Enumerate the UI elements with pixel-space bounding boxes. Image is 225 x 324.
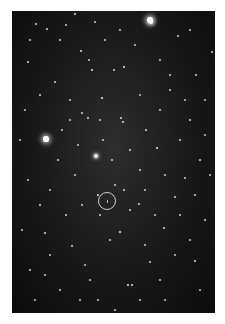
star bbox=[109, 239, 111, 241]
star bbox=[163, 227, 165, 229]
star bbox=[114, 184, 115, 185]
star bbox=[94, 154, 98, 158]
star-field-image bbox=[12, 11, 215, 313]
star bbox=[77, 144, 78, 145]
star bbox=[80, 50, 83, 53]
star bbox=[144, 189, 145, 190]
star bbox=[119, 231, 122, 234]
star bbox=[194, 260, 197, 263]
star bbox=[174, 254, 175, 255]
star bbox=[164, 299, 166, 301]
star bbox=[84, 264, 86, 266]
star bbox=[101, 97, 104, 100]
star bbox=[138, 203, 140, 205]
star bbox=[94, 21, 95, 22]
star bbox=[65, 24, 66, 25]
star bbox=[159, 279, 160, 280]
star bbox=[139, 299, 140, 300]
star bbox=[87, 117, 89, 119]
star bbox=[99, 214, 101, 216]
star bbox=[204, 134, 205, 135]
star bbox=[97, 299, 99, 301]
star bbox=[194, 194, 195, 195]
star bbox=[113, 69, 115, 71]
star bbox=[169, 74, 170, 75]
star bbox=[184, 177, 186, 179]
star bbox=[79, 299, 80, 300]
star bbox=[34, 299, 35, 300]
star bbox=[49, 189, 50, 190]
star bbox=[99, 119, 100, 120]
star bbox=[29, 39, 30, 40]
star bbox=[145, 129, 147, 131]
star bbox=[81, 204, 82, 205]
star bbox=[184, 99, 185, 100]
star bbox=[189, 239, 190, 240]
star bbox=[81, 112, 83, 114]
star bbox=[169, 89, 171, 91]
star bbox=[139, 94, 140, 95]
star bbox=[134, 44, 135, 45]
star bbox=[54, 81, 56, 83]
star bbox=[189, 119, 191, 121]
target-object bbox=[107, 200, 109, 203]
star bbox=[177, 35, 179, 37]
star bbox=[189, 29, 190, 30]
star bbox=[69, 99, 71, 101]
star bbox=[24, 109, 25, 110]
star bbox=[159, 109, 161, 111]
star bbox=[59, 39, 61, 41]
star bbox=[59, 289, 61, 291]
star bbox=[209, 174, 210, 175]
star bbox=[120, 117, 122, 119]
star bbox=[179, 214, 180, 215]
star bbox=[69, 119, 70, 120]
star bbox=[29, 269, 31, 271]
star bbox=[44, 274, 45, 275]
star bbox=[44, 232, 46, 234]
star bbox=[149, 261, 151, 263]
star bbox=[129, 209, 131, 211]
star bbox=[174, 196, 176, 198]
star bbox=[131, 284, 134, 287]
star bbox=[27, 61, 29, 63]
star bbox=[199, 289, 200, 290]
star bbox=[65, 214, 67, 216]
star bbox=[74, 13, 76, 15]
star bbox=[122, 121, 124, 123]
star bbox=[114, 309, 115, 310]
star bbox=[154, 214, 155, 215]
star bbox=[164, 174, 165, 175]
star bbox=[104, 39, 105, 40]
star bbox=[74, 174, 76, 176]
star bbox=[88, 59, 90, 61]
star bbox=[46, 28, 48, 30]
star bbox=[102, 139, 104, 141]
star bbox=[211, 51, 213, 53]
star bbox=[159, 59, 160, 60]
star bbox=[71, 245, 73, 247]
star bbox=[43, 136, 48, 141]
star bbox=[119, 29, 120, 30]
star bbox=[204, 99, 205, 100]
star bbox=[35, 23, 37, 25]
star bbox=[61, 129, 62, 130]
star bbox=[123, 189, 125, 191]
star bbox=[89, 279, 90, 280]
star bbox=[144, 244, 145, 245]
star bbox=[129, 149, 130, 150]
star bbox=[204, 219, 206, 221]
star bbox=[39, 94, 40, 95]
star bbox=[127, 284, 130, 287]
star bbox=[156, 147, 159, 150]
star bbox=[21, 229, 22, 230]
star bbox=[57, 159, 59, 161]
star bbox=[111, 159, 112, 160]
star bbox=[179, 139, 180, 140]
star bbox=[195, 74, 197, 76]
star bbox=[39, 204, 41, 206]
star bbox=[139, 169, 141, 171]
star bbox=[199, 159, 201, 161]
star bbox=[91, 69, 94, 72]
star bbox=[123, 66, 126, 69]
